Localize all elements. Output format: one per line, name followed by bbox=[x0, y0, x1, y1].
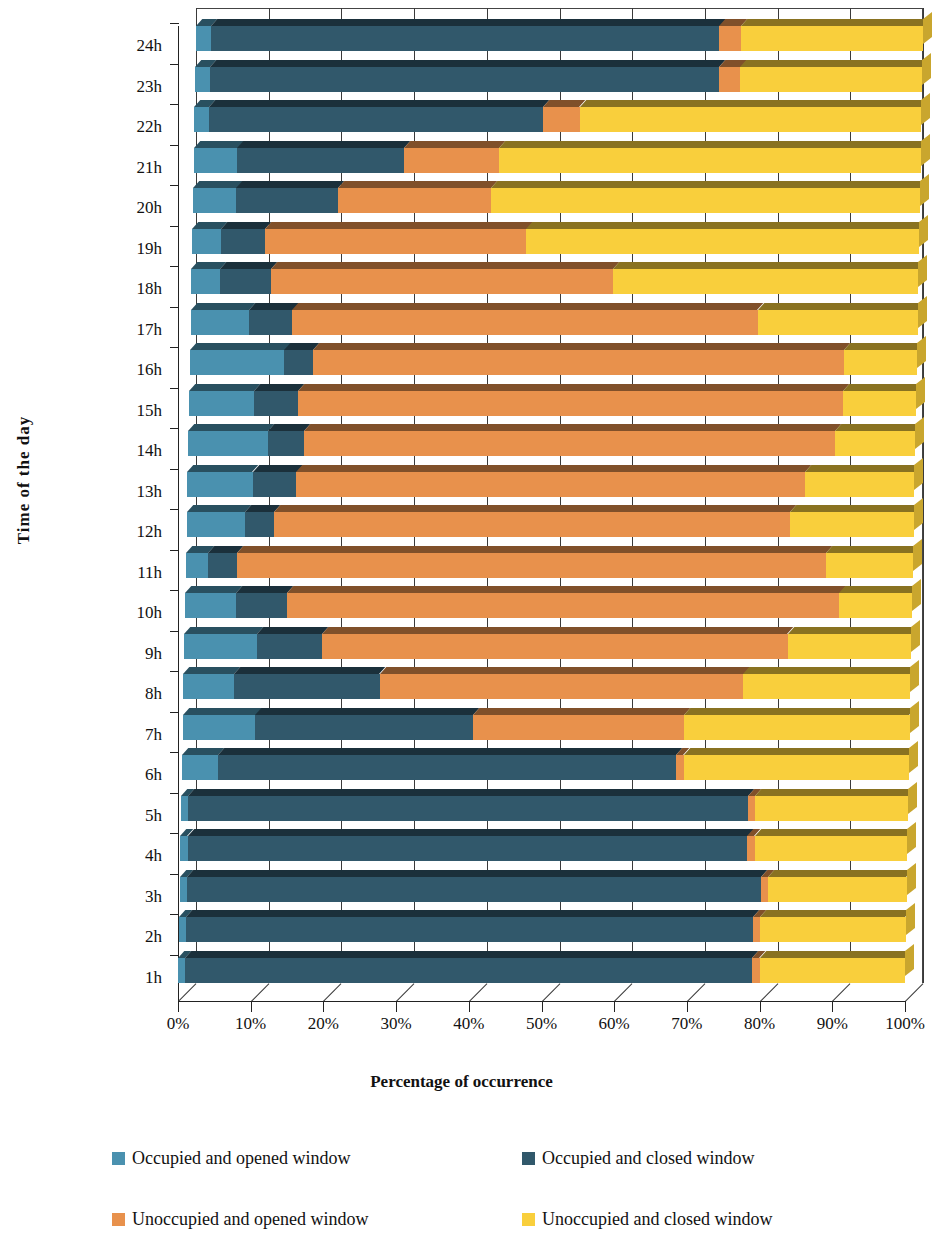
bar-row bbox=[188, 423, 915, 463]
y-tick-label: 15h bbox=[92, 401, 162, 421]
bar-end-cap bbox=[919, 214, 928, 246]
bar-segment-occupied-and-closed-window bbox=[268, 431, 304, 456]
bar-row bbox=[186, 545, 913, 585]
y-tick-mark bbox=[170, 833, 179, 834]
bar-segment-occupied-and-opened-window bbox=[180, 836, 187, 861]
stacked-bar bbox=[183, 715, 910, 740]
bar-segment-unoccupied-and-opened-window bbox=[753, 917, 760, 942]
bar-segment-occupied-and-closed-window bbox=[254, 391, 298, 416]
depth-line bbox=[905, 983, 924, 1002]
bar-end-cap bbox=[923, 12, 932, 44]
stacked-bar bbox=[195, 67, 922, 92]
bar-segment-unoccupied-and-closed-window bbox=[580, 107, 922, 132]
y-tick-label: 13h bbox=[92, 482, 162, 502]
y-tick-label: 12h bbox=[92, 522, 162, 542]
y-tick-mark bbox=[170, 347, 179, 348]
stacked-bar bbox=[194, 107, 921, 132]
bar-segment-unoccupied-and-closed-window bbox=[613, 269, 918, 294]
bar-segment-occupied-and-opened-window bbox=[187, 512, 245, 537]
x-tick-mark bbox=[396, 1001, 397, 1012]
y-tick-label: 4h bbox=[92, 846, 162, 866]
bar-row bbox=[191, 261, 918, 301]
bar-segment-unoccupied-and-closed-window bbox=[684, 755, 909, 780]
bar-row bbox=[184, 626, 911, 666]
bar-segment-occupied-and-closed-window bbox=[187, 877, 761, 902]
y-tick-mark bbox=[170, 752, 179, 753]
bar-segment-occupied-and-opened-window bbox=[191, 269, 220, 294]
bar-row bbox=[187, 464, 914, 504]
legend-swatch-icon bbox=[112, 1152, 125, 1165]
legend-item-occupied_closed[interactable]: Occupied and closed window bbox=[522, 1148, 922, 1169]
bar-segment-occupied-and-closed-window bbox=[209, 107, 543, 132]
y-tick-label: 8h bbox=[92, 684, 162, 704]
bar-segment-occupied-and-opened-window bbox=[180, 877, 187, 902]
y-tick-mark bbox=[170, 590, 179, 591]
bar-segment-occupied-and-opened-window bbox=[191, 310, 249, 335]
x-tick-mark bbox=[687, 1001, 688, 1012]
bar-segment-occupied-and-opened-window bbox=[189, 391, 254, 416]
bar-row bbox=[195, 59, 922, 99]
stacked-bar bbox=[181, 796, 908, 821]
y-axis-line bbox=[178, 26, 179, 1001]
stacked-bar bbox=[180, 877, 907, 902]
bar-segment-unoccupied-and-closed-window bbox=[835, 431, 915, 456]
bar-segment-unoccupied-and-opened-window bbox=[676, 755, 683, 780]
bar-segment-unoccupied-and-opened-window bbox=[304, 431, 835, 456]
bar-row bbox=[180, 828, 907, 868]
bar-segment-unoccupied-and-opened-window bbox=[298, 391, 843, 416]
stacked-bar bbox=[179, 917, 906, 942]
legend-item-unoccupied_opened[interactable]: Unoccupied and opened window bbox=[112, 1209, 522, 1230]
x-tick-label: 40% bbox=[439, 1014, 499, 1034]
bar-end-cap bbox=[922, 52, 931, 84]
legend-item-occupied_opened[interactable]: Occupied and opened window bbox=[112, 1148, 522, 1169]
bar-segment-occupied-and-closed-window bbox=[211, 26, 720, 51]
x-tick-label: 100% bbox=[875, 1014, 935, 1034]
y-tick-label: 14h bbox=[92, 441, 162, 461]
x-tick-mark bbox=[178, 1001, 179, 1012]
y-tick-label: 21h bbox=[92, 158, 162, 178]
bar-segment-occupied-and-closed-window bbox=[249, 310, 293, 335]
bar-row bbox=[192, 221, 919, 261]
bar-segment-unoccupied-and-opened-window bbox=[292, 310, 757, 335]
y-tick-label: 17h bbox=[92, 320, 162, 340]
bar-segment-unoccupied-and-opened-window bbox=[237, 553, 826, 578]
y-tick-mark bbox=[170, 145, 179, 146]
bar-segment-unoccupied-and-closed-window bbox=[768, 877, 906, 902]
bar-segment-unoccupied-and-opened-window bbox=[404, 148, 499, 173]
legend-item-unoccupied_closed[interactable]: Unoccupied and closed window bbox=[522, 1209, 922, 1230]
bar-row bbox=[179, 909, 906, 949]
stacked-bar bbox=[183, 674, 910, 699]
x-tick-label: 30% bbox=[366, 1014, 426, 1034]
bar-segment-unoccupied-and-closed-window bbox=[843, 391, 916, 416]
bar-segment-occupied-and-opened-window bbox=[192, 229, 221, 254]
bar-segment-unoccupied-and-closed-window bbox=[805, 472, 914, 497]
bar-segment-unoccupied-and-closed-window bbox=[788, 634, 912, 659]
bar-segment-occupied-and-opened-window bbox=[190, 350, 285, 375]
bar-segment-occupied-and-opened-window bbox=[181, 796, 188, 821]
bar-segment-occupied-and-closed-window bbox=[245, 512, 274, 537]
y-tick-mark bbox=[170, 955, 179, 956]
bar-segment-occupied-and-closed-window bbox=[210, 67, 719, 92]
bar-segment-occupied-and-opened-window bbox=[187, 472, 252, 497]
y-tick-mark bbox=[170, 307, 179, 308]
bar-end-cap bbox=[918, 255, 927, 287]
bar-segment-occupied-and-closed-window bbox=[255, 715, 473, 740]
bar-segment-occupied-and-closed-window bbox=[188, 836, 748, 861]
bar-segment-unoccupied-and-opened-window bbox=[473, 715, 684, 740]
y-tick-mark bbox=[170, 631, 179, 632]
y-tick-label: 6h bbox=[92, 765, 162, 785]
bar-row bbox=[185, 585, 912, 625]
stacked-bar bbox=[193, 188, 920, 213]
y-tick-label: 5h bbox=[92, 806, 162, 826]
x-tick-label: 0% bbox=[148, 1014, 208, 1034]
bar-segment-unoccupied-and-opened-window bbox=[543, 107, 579, 132]
bar-segment-occupied-and-closed-window bbox=[257, 634, 322, 659]
legend-swatch-icon bbox=[522, 1213, 535, 1226]
y-tick-mark bbox=[170, 509, 179, 510]
bar-segment-unoccupied-and-closed-window bbox=[755, 796, 908, 821]
bar-segment-unoccupied-and-closed-window bbox=[491, 188, 920, 213]
bar-segment-occupied-and-opened-window bbox=[179, 917, 186, 942]
x-tick-mark bbox=[251, 1001, 252, 1012]
bar-row bbox=[194, 99, 921, 139]
bar-segment-unoccupied-and-opened-window bbox=[274, 512, 790, 537]
